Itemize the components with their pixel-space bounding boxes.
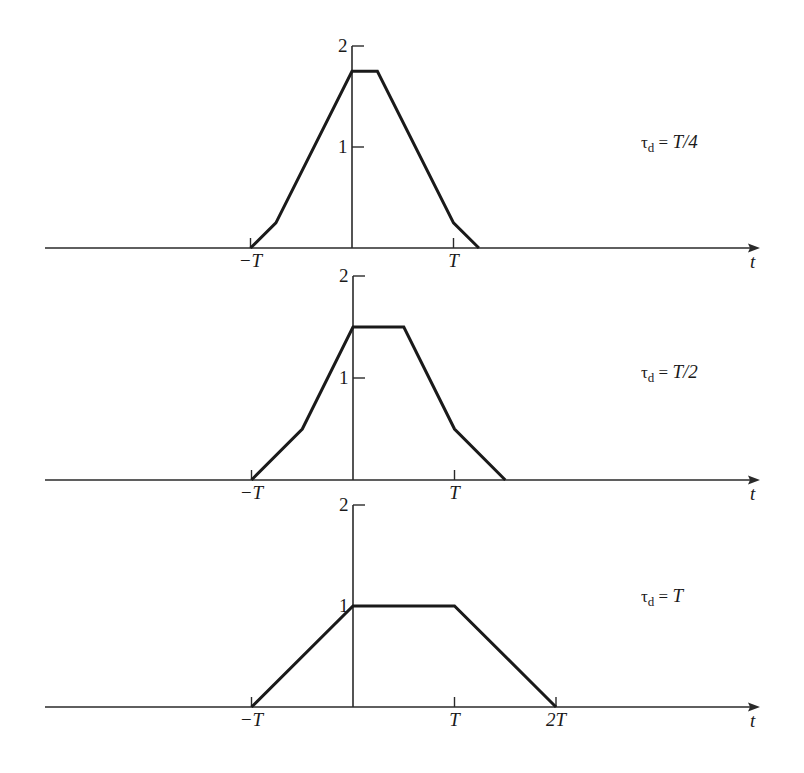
pulse-curve [252, 327, 506, 480]
trapezoid-pulse-figure: t12−TTτd = T/4t12−TTτd = T/2t12−TT2Tτd =… [0, 0, 804, 773]
y-tick-label: 1 [339, 367, 349, 388]
panel-3: t12−TT2Tτd = T [45, 494, 760, 731]
x-tick-label: T [448, 250, 460, 271]
tau-d-annotation: τd = T/2 [641, 361, 698, 385]
tau-d-annotation: τd = T [641, 585, 684, 609]
x-tick-label: −T [240, 709, 265, 730]
x-tick-label: T [449, 482, 461, 503]
pulse-curve [251, 71, 479, 248]
tau-d-annotation: τd = T/4 [641, 131, 698, 155]
x-tick-label: −T [239, 250, 264, 271]
x-tick-label: 2T [546, 709, 568, 730]
t-axis-label: t [750, 483, 756, 504]
t-axis-label: t [750, 251, 756, 272]
y-tick-label: 1 [338, 136, 348, 157]
x-tick-label: T [449, 709, 461, 730]
y-tick-label: 2 [339, 494, 349, 515]
pulse-curve [252, 606, 557, 707]
y-tick-label: 2 [338, 35, 348, 56]
x-tick-label: −T [240, 482, 265, 503]
panel-2: t12−TTτd = T/2 [45, 265, 760, 504]
t-axis-label: t [750, 710, 756, 731]
panel-1: t12−TTτd = T/4 [45, 35, 760, 272]
y-tick-label: 2 [339, 265, 349, 286]
